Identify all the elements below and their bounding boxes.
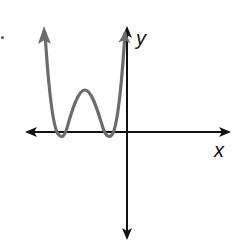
- stray-mark: [1, 36, 4, 39]
- x-axis-label: x: [214, 140, 224, 160]
- graph-canvas: [0, 0, 237, 244]
- polynomial-curve: [45, 33, 125, 137]
- graph: y x: [0, 0, 237, 244]
- y-axis-label: y: [136, 28, 146, 48]
